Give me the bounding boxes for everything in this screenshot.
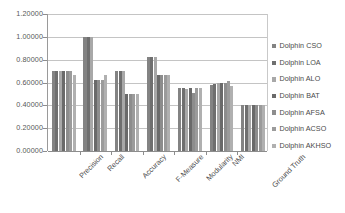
legend-item[interactable]: Dolphin CSO (272, 38, 345, 55)
x-axis-tick-label: F-Measure (174, 153, 205, 184)
x-axis-tick-label: Modularity (205, 153, 235, 183)
legend-swatch-icon (272, 61, 276, 65)
legend-item[interactable]: Dolphin ALO (272, 71, 345, 88)
plot-area (47, 14, 268, 151)
bar-group (174, 14, 206, 151)
y-axis-tick-label: 1.20000 (16, 10, 43, 17)
y-axis: 0.000000.200000.400000.600000.800001.000… (0, 0, 47, 151)
y-axis-tick-label: 0.40000 (16, 102, 43, 109)
bar-group (48, 14, 80, 151)
legend-item[interactable]: Dolphin BAT (272, 88, 345, 105)
bar-chart: 0.000000.200000.400000.600000.800001.000… (0, 0, 345, 213)
legend-swatch-icon (272, 94, 276, 98)
y-axis-tick-label: 0.60000 (16, 79, 43, 86)
bars-layer (48, 14, 267, 151)
y-axis-tick-label: 1.00000 (16, 33, 43, 40)
bar-group (206, 14, 238, 151)
x-axis-tick-label: Recall (106, 153, 126, 173)
bar (230, 86, 233, 151)
bar (199, 88, 202, 151)
x-axis-tick-label: NMI (231, 153, 246, 168)
bar-group (80, 14, 112, 151)
bar-group (111, 14, 143, 151)
y-axis-tick-label: 0.80000 (16, 56, 43, 63)
bar (167, 75, 170, 151)
legend-swatch-icon (272, 77, 276, 81)
legend-label: Dolphin AFSA (279, 109, 324, 117)
legend-item[interactable]: Dolphin AFSA (272, 104, 345, 121)
y-axis-tick-label: 0.20000 (16, 125, 43, 132)
x-axis-tick-label: Precision (78, 153, 105, 180)
legend-swatch-icon (272, 127, 276, 131)
bar (73, 75, 76, 151)
bar (262, 105, 265, 151)
legend-swatch-icon (272, 110, 276, 114)
legend-swatch-icon (272, 44, 276, 48)
x-axis: PrecisionRecallAccuracyF-MeasureModulari… (47, 151, 268, 213)
bar (136, 94, 139, 151)
legend-label: Dolphin BAT (279, 92, 319, 100)
legend-item[interactable]: Dolphin LOA (272, 55, 345, 72)
legend-label: Dolphin ALO (279, 75, 320, 83)
legend-label: Dolphin AKHSO (279, 142, 331, 150)
legend: Dolphin CSODolphin LOADolphin ALODolphin… (272, 38, 345, 154)
bar (104, 75, 107, 151)
x-axis-tick-label: Accuracy (141, 153, 168, 180)
legend-label: Dolphin CSO (279, 42, 322, 50)
x-axis-tick-label: Ground Truth (271, 153, 307, 189)
legend-label: Dolphin LOA (279, 59, 320, 67)
legend-item[interactable]: Dolphin ACSO (272, 121, 345, 138)
bar-group (237, 14, 269, 151)
legend-label: Dolphin ACSO (279, 125, 326, 133)
y-axis-tick-label: 0.00000 (16, 147, 43, 154)
legend-swatch-icon (272, 144, 276, 148)
legend-item[interactable]: Dolphin AKHSO (272, 138, 345, 155)
bar-group (143, 14, 175, 151)
